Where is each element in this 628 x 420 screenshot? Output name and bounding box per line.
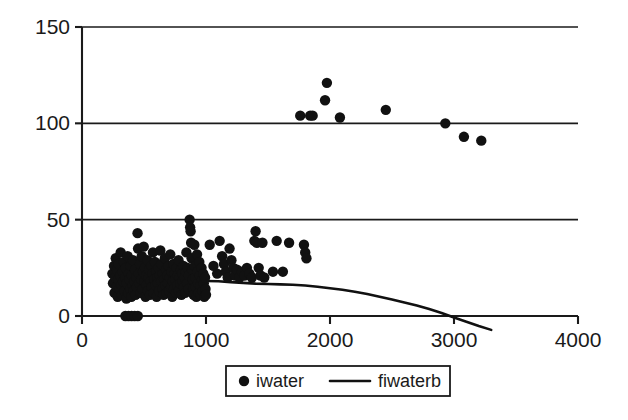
data-point — [214, 236, 224, 246]
y-tick-label-50: 50 — [47, 208, 70, 231]
data-point — [205, 240, 215, 250]
data-point — [212, 268, 222, 278]
data-point — [189, 240, 199, 250]
data-point — [476, 135, 486, 145]
data-point — [247, 272, 257, 282]
y-tick-label-100: 100 — [35, 111, 70, 134]
legend-marker-iwater — [239, 376, 249, 386]
y-tick-label-0: 0 — [58, 304, 70, 327]
x-tick-label-4000: 4000 — [555, 328, 602, 351]
series-fiwaterb-line — [206, 281, 491, 330]
chart-container: 05010015001000200030004000 iwaterfiwater… — [0, 0, 628, 420]
data-point — [459, 132, 469, 142]
legend-label-fiwaterb: fiwaterb — [378, 371, 441, 391]
data-point — [335, 112, 345, 122]
scatter-plot: 05010015001000200030004000 iwaterfiwater… — [0, 0, 628, 420]
data-point — [132, 228, 142, 238]
x-tick-label-3000: 3000 — [431, 328, 478, 351]
data-point — [307, 110, 317, 120]
data-point — [320, 95, 330, 105]
data-point — [271, 236, 281, 246]
data-point — [278, 266, 288, 276]
series-line-fiwaterb — [206, 281, 491, 330]
x-tick-label-2000: 2000 — [307, 328, 354, 351]
data-point — [200, 272, 210, 282]
gridlines — [82, 27, 578, 220]
data-point — [139, 241, 149, 251]
legend-label-iwater: iwater — [256, 371, 304, 391]
data-point — [250, 226, 260, 236]
chart-legend: iwaterfiwaterb — [226, 366, 450, 396]
data-point — [322, 78, 332, 88]
data-point — [301, 253, 311, 263]
data-point — [133, 311, 143, 321]
data-point — [201, 290, 211, 300]
data-point — [185, 226, 195, 236]
data-point — [295, 110, 305, 120]
data-point — [257, 238, 267, 248]
y-tick-label-150: 150 — [35, 15, 70, 38]
data-point — [224, 243, 234, 253]
data-point — [440, 118, 450, 128]
data-point — [381, 105, 391, 115]
x-tick-label-0: 0 — [76, 328, 88, 351]
data-point — [259, 272, 269, 282]
data-point — [268, 266, 278, 276]
data-point — [284, 238, 294, 248]
x-tick-label-1000: 1000 — [183, 328, 230, 351]
